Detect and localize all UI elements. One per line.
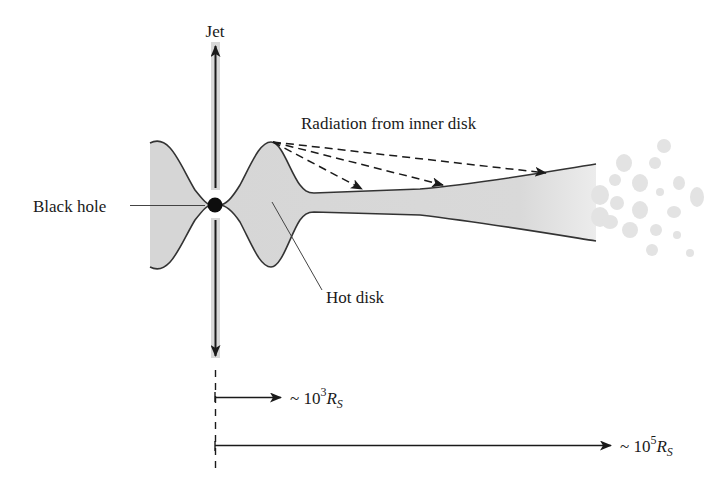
black-hole-label: Black hole [33,197,106,216]
scale-inner-label: ~ 103RS [290,385,343,411]
scale-inner-symbol: R [325,389,337,408]
scale-inner-prefix: ~ 10 [290,389,320,408]
scale-outer: ~ 105RS [215,433,673,459]
accretion-diagram: Jet Radiation from inner disk Black hole… [0,0,725,497]
black-hole-icon [208,198,223,213]
scale-inner: ~ 103RS [215,385,343,411]
scale-outer-prefix: ~ 10 [620,437,650,456]
hot-disk-label: Hot disk [326,288,385,307]
radiation-label: Radiation from inner disk [301,114,477,133]
disk-right-lobe-and-outer-disk [219,142,596,267]
radiation-arrow-2-icon [273,142,443,185]
outer-disk-clumps [591,139,704,257]
radiation-arrow-3-icon [273,142,546,173]
jet-label: Jet [206,22,225,41]
scale-outer-label: ~ 105RS [620,433,673,459]
scale-inner-subscript: S [337,397,343,411]
scale-outer-symbol: R [655,437,667,456]
scale-outer-subscript: S [667,445,673,459]
